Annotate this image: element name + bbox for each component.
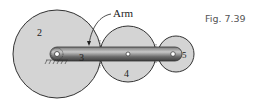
label-gear-5: 5 [182,50,187,60]
gear-train-diagram: Arm 2 3 4 5 Fig. 7.39 [0,0,260,105]
arm-link-3 [50,47,182,61]
gear-4-pin-icon [126,52,130,56]
label-arm-link-3: 3 [79,52,84,63]
gear-5-pin-icon [171,52,176,57]
label-gear-2: 2 [37,27,42,38]
label-gear-4: 4 [124,68,129,79]
pivot-pin-icon [55,52,60,57]
label-arm: Arm [113,7,134,19]
figure-caption: Fig. 7.39 [205,13,246,24]
